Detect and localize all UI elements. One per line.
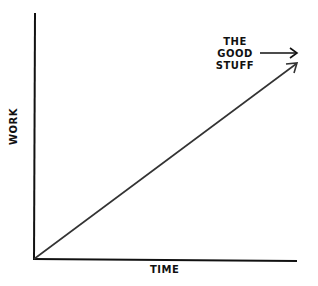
data-line [34,64,296,259]
chart-canvas [0,0,318,286]
y-axis [34,13,35,260]
annotation-text: THE GOOD STUFF [205,36,265,72]
y-axis-label: WORK [8,108,19,145]
annotation-line-2: STUFF [205,60,265,72]
x-axis-label: TIME [150,264,179,275]
x-axis [33,259,297,261]
annotation-line-1: THE GOOD [205,36,265,60]
